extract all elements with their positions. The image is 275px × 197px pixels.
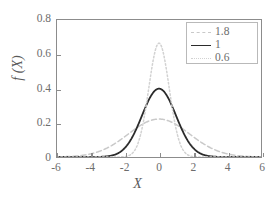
y-tick-label: 0.6	[37, 48, 51, 60]
x-tick	[126, 153, 127, 157]
legend: 1.8 1 0.6	[186, 22, 258, 64]
legend-item-0: 1.8	[191, 26, 253, 38]
legend-label: 0.6	[215, 52, 229, 64]
legend-label: 1.8	[215, 26, 229, 38]
x-tick-label: 2	[190, 162, 196, 174]
x-tick-label: 6	[259, 162, 265, 174]
y-tick	[57, 124, 61, 125]
series-path-1	[57, 89, 261, 157]
x-tick-label: -4	[86, 162, 96, 174]
x-tick-label: -6	[51, 162, 61, 174]
x-tick	[229, 153, 230, 157]
y-tick-label: 0.4	[37, 83, 51, 95]
series-path-0	[57, 119, 261, 157]
legend-swatch-dotted-icon	[191, 58, 211, 59]
y-axis-title: f (X)	[10, 38, 26, 98]
x-tick-label: -2	[120, 162, 130, 174]
x-tick	[57, 153, 58, 157]
x-tick-label: 0	[156, 162, 162, 174]
legend-item-1: 1	[191, 39, 253, 51]
x-axis-title: X	[0, 176, 275, 192]
legend-label: 1	[215, 39, 221, 51]
y-tick-label: 0.8	[37, 13, 51, 25]
figure: -6-4-20246 00.20.40.60.8 X f (X) 1.8 1 0…	[0, 0, 275, 197]
legend-swatch-solid-icon	[191, 45, 211, 46]
x-tick	[194, 153, 195, 157]
legend-item-2: 0.6	[191, 52, 253, 64]
y-tick	[57, 55, 61, 56]
y-tick-labels: 00.20.40.60.8	[0, 0, 51, 197]
legend-swatch-dashed-icon	[191, 32, 211, 33]
x-tick-label: 4	[225, 162, 231, 174]
x-tick	[91, 153, 92, 157]
x-tick	[160, 153, 161, 157]
y-tick-label: 0	[45, 152, 51, 164]
x-tick	[263, 153, 264, 157]
y-tick-label: 0.2	[37, 118, 51, 130]
y-tick	[57, 90, 61, 91]
